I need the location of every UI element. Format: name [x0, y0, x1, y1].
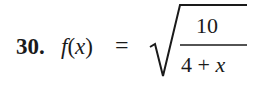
fraction-numerator: 10 [196, 15, 218, 37]
fraction-denominator: 4 + x [181, 54, 225, 76]
denominator-variable: x [215, 52, 225, 77]
denominator-operator: + [198, 52, 210, 77]
denominator-constant: 4 [181, 52, 192, 77]
